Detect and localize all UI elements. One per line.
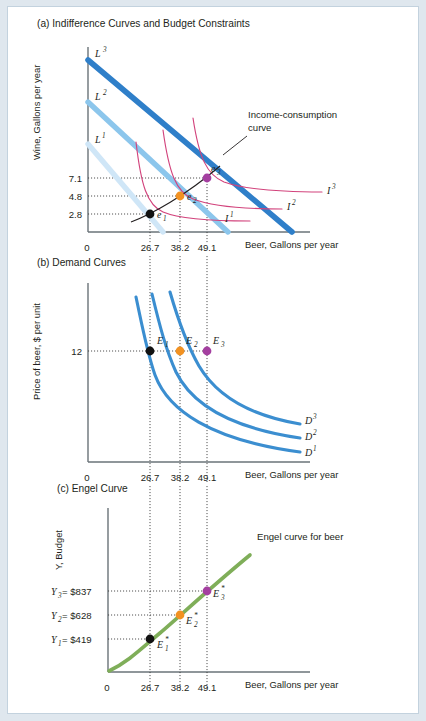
svg-text:3: 3 [216,169,221,177]
svg-text:3: 3 [220,341,225,349]
svg-text:I: I [326,185,331,196]
demand-label-e3: E 3 [212,335,225,349]
panel-b: (b) Demand Curves Price of beer, $ per u… [31,256,338,483]
svg-text:D: D [304,415,313,426]
svg-text:1: 1 [165,645,169,653]
svg-text:E: E [156,335,163,346]
svg-text:e: e [187,191,192,202]
svg-text:E: E [212,588,219,599]
engel-point-e1 [146,635,155,644]
svg-text:2: 2 [313,429,317,437]
panel-a-ytick-48: 4.8 [69,191,82,202]
svg-text:E: E [185,335,192,346]
demand-label-d3: D 3 [304,413,317,426]
svg-text:3: 3 [102,46,107,54]
panel-b-ytick-12: 12 [71,346,82,357]
panel-b-title: (b) Demand Curves [37,257,126,268]
panel-c-ytick-y2: Y 2 = $628 [51,610,92,624]
indifference-label-i3: I 3 [326,183,336,196]
panel-c-xtick-382: 38.2 [171,682,190,693]
demand-label-d2: D 2 [304,429,317,442]
svg-text:L: L [94,91,101,102]
panel-c-origin: 0 [104,682,109,693]
panel-b-guides [88,256,207,482]
panel-b-xtick-267: 26.7 [141,472,160,483]
panel-b-xtick-491: 49.1 [198,472,217,483]
panel-a-origin: 0 [84,242,89,253]
budget-line-l1 [88,144,163,232]
demand-curve-d2 [152,294,300,438]
svg-text:D: D [304,431,313,442]
panel-b-ylabel: Price of beer, $ per unit [31,303,42,400]
panel-b-xtick-382: 38.2 [171,472,190,483]
demand-label-e2: E 2 [185,335,198,349]
svg-text:2: 2 [194,341,198,349]
svg-text:1: 1 [230,211,234,219]
engel-curve-label: Engel curve for beer [257,531,344,542]
panel-a-ylabel: Wine, Gallons per year [31,65,42,160]
panel-a-xtick-491: 49.1 [198,242,217,253]
engel-label-e1: E 1 * [156,636,169,653]
panel-c-guides [108,486,207,690]
equilibrium-point-e1 [146,210,155,219]
demand-point-e2 [176,347,185,356]
svg-text:Y: Y [51,634,58,645]
demand-curve-d3 [170,292,300,424]
svg-text:2: 2 [103,89,107,97]
svg-text:E: E [185,615,192,626]
panel-a-xtick-267: 26.7 [141,242,160,253]
annotation-leader-line [223,136,247,155]
svg-text:1: 1 [165,341,169,349]
svg-text:e: e [211,163,216,174]
svg-text:I: I [224,213,229,224]
svg-text:= $419: = $419 [62,634,92,645]
income-consumption-annotation-line1: Income-consumption [248,109,337,120]
engel-label-e3: E 3 * [212,585,225,602]
panel-c-xlabel: Beer, Gallons per year [245,679,338,690]
svg-text:= $837: = $837 [62,586,92,597]
svg-text:D: D [304,447,313,458]
panel-c-ytick-y3: Y 3 = $837 [51,586,92,600]
indifference-label-i1: I 1 [224,211,234,224]
svg-text:1: 1 [102,132,106,140]
svg-text:= $628: = $628 [62,610,92,621]
svg-text:E: E [156,639,163,650]
svg-text:2: 2 [194,621,198,629]
svg-text:Y: Y [51,610,58,621]
svg-text:L: L [94,48,101,59]
svg-text:3: 3 [220,594,225,602]
svg-text:1: 1 [313,445,317,453]
panel-b-xlabel: Beer, Gallons per year [245,469,338,480]
panel-a-ytick-71: 7.1 [69,173,82,184]
budget-label-l3: L 3 [94,46,107,59]
svg-text:2: 2 [292,199,296,207]
svg-text:E: E [212,335,219,346]
budget-label-l2: L 2 [94,89,107,102]
svg-text:I: I [286,201,291,212]
demand-point-e3 [203,347,212,356]
panel-c-ytick-y1: Y 1 = $419 [51,634,92,648]
panel-c-title: (c) Engel Curve [57,483,128,494]
panel-a-title: (a) Indifference Curves and Budget Const… [37,18,250,29]
svg-text:L: L [94,134,101,145]
svg-text:*: * [221,585,225,593]
svg-text:1: 1 [163,215,167,223]
panel-c-xtick-491: 49.1 [198,682,217,693]
figure-svg: (a) Indifference Curves and Budget Const… [0,0,426,721]
panel-a-xlabel: Beer, Gallons per year [245,239,338,250]
panel-c-xtick-267: 26.7 [141,682,160,693]
svg-text:3: 3 [331,183,336,191]
svg-text:2: 2 [193,197,197,205]
svg-text:e: e [157,209,162,220]
budget-label-l1: L 1 [94,132,106,145]
budget-line-l3 [88,60,292,232]
indifference-label-i2: I 2 [286,199,296,212]
svg-text:Y: Y [51,586,58,597]
svg-text:*: * [194,612,198,620]
figure-container: (a) Indifference Curves and Budget Const… [0,0,426,721]
panel-a-ytick-28: 2.8 [69,209,82,220]
panel-c: (c) Engel Curve Y, Budget Engel curve fo… [51,483,344,693]
panel-a-xtick-382: 38.2 [171,242,190,253]
demand-label-d1: D 1 [304,445,317,458]
demand-label-e1: E 1 [156,335,169,349]
